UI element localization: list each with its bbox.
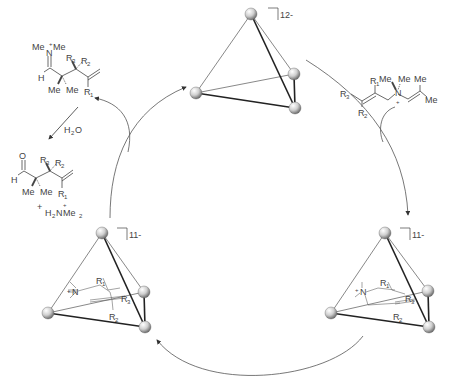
metal-vertex bbox=[423, 321, 435, 333]
svg-text:3: 3 bbox=[127, 299, 131, 305]
svg-text:3: 3 bbox=[72, 58, 76, 64]
metal-vertex bbox=[325, 307, 337, 319]
hydrolysis-reagent: H 2 O bbox=[64, 125, 82, 136]
svg-text:H: H bbox=[38, 73, 45, 83]
svg-text:3: 3 bbox=[346, 94, 350, 100]
iminium-labels: Me Me + N H R 3 R 2 Me Me R 1 bbox=[32, 41, 94, 98]
svg-text:Me: Me bbox=[414, 74, 427, 84]
svg-text:2: 2 bbox=[364, 113, 368, 119]
svg-text:Me: Me bbox=[425, 95, 438, 105]
svg-text:O: O bbox=[19, 151, 26, 161]
svg-text:+: + bbox=[355, 287, 359, 293]
svg-text:+: + bbox=[67, 288, 71, 294]
svg-text:N: N bbox=[46, 48, 53, 58]
svg-text:Me: Me bbox=[40, 187, 53, 197]
cycle-arrow-rearrangement bbox=[157, 336, 363, 375]
svg-text:2: 2 bbox=[79, 213, 83, 219]
svg-text:1: 1 bbox=[386, 283, 390, 289]
charge-label: 11- bbox=[129, 230, 141, 240]
svg-text:Me: Me bbox=[63, 208, 76, 218]
metal-vertex bbox=[289, 102, 301, 114]
svg-text:O: O bbox=[75, 125, 82, 135]
svg-text:1: 1 bbox=[90, 92, 94, 98]
svg-text:3: 3 bbox=[46, 160, 50, 166]
host-empty-tetrahedron: 12- bbox=[190, 8, 301, 114]
aldehyde-labels: O H R 3 R 2 Me Me R 1 bbox=[11, 151, 68, 200]
catalytic-cycle-diagram: 12- + N R 1 R 3 R 2 bbox=[0, 0, 450, 387]
svg-text:N: N bbox=[56, 208, 63, 218]
metal-vertex bbox=[190, 87, 202, 99]
metal-vertex bbox=[422, 285, 434, 297]
svg-text:2: 2 bbox=[61, 163, 65, 169]
svg-text:N: N bbox=[395, 88, 402, 98]
svg-text:N: N bbox=[72, 287, 79, 297]
svg-text:Me: Me bbox=[32, 42, 45, 52]
svg-text:H: H bbox=[45, 208, 52, 218]
charge-label: 12- bbox=[280, 10, 293, 20]
metal-vertex bbox=[139, 321, 151, 333]
svg-text:N: N bbox=[360, 287, 367, 297]
svg-text:2: 2 bbox=[87, 61, 91, 67]
metal-vertex bbox=[379, 227, 391, 239]
cycle-arrow-release bbox=[110, 87, 186, 218]
svg-text:1: 1 bbox=[64, 194, 68, 200]
svg-text:+: + bbox=[396, 99, 400, 105]
metal-vertex bbox=[96, 227, 108, 239]
substrate-in-arrow bbox=[381, 107, 395, 142]
svg-text:Me: Me bbox=[53, 42, 66, 52]
svg-text:Me: Me bbox=[22, 187, 35, 197]
substrate-structure bbox=[351, 82, 427, 107]
metal-vertex bbox=[288, 68, 300, 80]
svg-text:H: H bbox=[64, 125, 71, 135]
metal-vertex bbox=[245, 8, 257, 20]
host-substrate-complex: + N R 1 R 3 R 2 11- bbox=[325, 227, 435, 333]
svg-text:Me: Me bbox=[398, 74, 411, 84]
byproduct-dimethylammonium: + + H 2 N Me 2 bbox=[37, 202, 83, 219]
svg-text:Me: Me bbox=[48, 85, 61, 95]
charge-label: 11- bbox=[412, 230, 424, 240]
metal-vertex bbox=[138, 286, 150, 298]
svg-text:H: H bbox=[11, 175, 18, 185]
host-product-complex: + N R 1 R 3 R 2 11- bbox=[42, 227, 151, 333]
svg-text:Me: Me bbox=[379, 74, 392, 84]
svg-text:+: + bbox=[49, 41, 53, 47]
svg-text:+: + bbox=[37, 202, 42, 212]
metal-vertex bbox=[42, 307, 54, 319]
svg-text:Me: Me bbox=[66, 85, 79, 95]
svg-text:3: 3 bbox=[411, 299, 415, 305]
